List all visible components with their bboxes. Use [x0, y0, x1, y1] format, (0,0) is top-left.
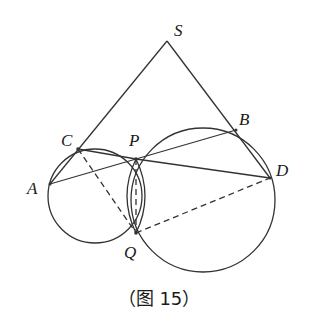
- segment-Q-D: [136, 178, 270, 233]
- segment-A-P: [50, 159, 136, 184]
- figure-caption: （图 15）: [118, 288, 201, 309]
- geometry-figure: S A C P B D Q （图 15）: [0, 0, 319, 335]
- label-C: C: [61, 131, 73, 150]
- point-dot-A: [49, 183, 52, 186]
- label-P: P: [128, 131, 139, 150]
- label-B: B: [239, 110, 250, 129]
- label-D: D: [275, 161, 289, 180]
- label-Q: Q: [124, 243, 136, 262]
- segment-S-A: [50, 41, 167, 184]
- point-dot-Q: [134, 231, 138, 235]
- point-dot-P: [134, 157, 138, 161]
- segment-P-B: [136, 130, 236, 159]
- point-dot-C: [76, 147, 80, 151]
- point-dot-B: [235, 129, 238, 132]
- left-circle: [48, 149, 142, 243]
- point-dot-D: [269, 177, 272, 180]
- segment-S-D: [167, 41, 270, 178]
- label-A: A: [26, 179, 38, 198]
- segment-P-D: [136, 159, 270, 178]
- right-circle: [131, 128, 275, 272]
- label-S: S: [174, 21, 183, 40]
